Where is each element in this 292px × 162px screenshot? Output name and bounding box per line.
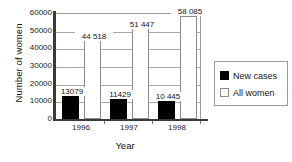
x-tick-label-1997: 1997 [111, 123, 147, 132]
legend-swatch-outlined-square-icon [220, 88, 229, 97]
data-label-new-cases-1997: 11429 [101, 90, 139, 99]
data-label-all-women-1998: 58 085 [171, 7, 209, 16]
legend-label-new-cases: New cases [233, 71, 277, 81]
bar-new-cases-1998 [158, 101, 175, 120]
y-axis-spine [53, 11, 56, 121]
y-tick-label: 60000 [10, 9, 52, 17]
y-tick-label: 50000 [10, 27, 52, 35]
gridline [56, 49, 200, 50]
x-tick-mark [104, 121, 105, 124]
gridline [56, 67, 200, 68]
y-tick-label: 40000 [10, 44, 52, 52]
y-axis-ticks: 60000 50000 40000 30000 20000 10000 0 [8, 13, 52, 119]
bar-new-cases-1996 [62, 96, 79, 119]
y-tick-label: 30000 [10, 62, 52, 70]
bar-all-women-1996 [84, 40, 101, 119]
bar-all-women-1998 [180, 16, 197, 119]
legend-item-all-women: All women [220, 84, 283, 101]
legend-swatch-filled-square-icon [220, 71, 229, 80]
x-tick-mark [200, 121, 201, 124]
data-label-all-women-1997: 51 447 [123, 20, 161, 29]
gridline [56, 85, 200, 86]
bar-all-women-1997 [132, 28, 149, 119]
x-axis-title: Year [45, 140, 205, 151]
legend-item-new-cases: New cases [220, 67, 283, 84]
y-tick-label: 0 [10, 115, 52, 123]
bar-chart-figure: Number of women 60000 50000 40000 30000 … [0, 0, 292, 162]
data-label-new-cases-1998: 10 445 [149, 92, 187, 101]
x-tick-label-1996: 1996 [63, 123, 99, 132]
plot-area: 13079 44 518 11429 51 447 10 445 58 085 [56, 13, 201, 119]
legend-label-all-women: All women [233, 88, 275, 98]
x-tick-label-1998: 1998 [159, 123, 195, 132]
bar-new-cases-1997 [110, 99, 127, 119]
x-tick-mark [152, 121, 153, 124]
data-label-all-women-1996: 44 518 [75, 32, 113, 41]
y-tick-label: 20000 [10, 80, 52, 88]
data-label-new-cases-1996: 13079 [53, 87, 91, 96]
y-tick-label: 10000 [10, 97, 52, 105]
chart-legend: New cases All women [214, 61, 288, 106]
x-axis-spine [53, 119, 208, 121]
